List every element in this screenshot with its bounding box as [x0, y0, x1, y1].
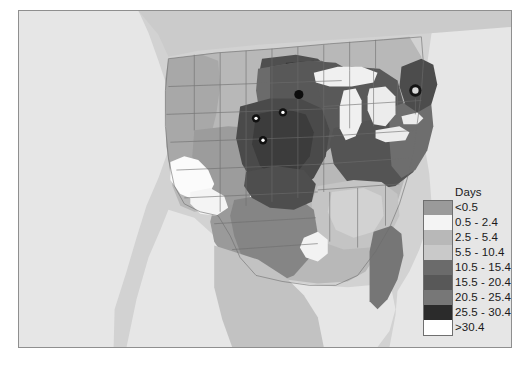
legend-row-1: 0.5 - 2.4: [422, 215, 510, 230]
legend-swatch-4: [423, 260, 453, 275]
legend-row-8: >30.4: [422, 320, 510, 335]
legend-label-0: <0.5: [455, 201, 478, 213]
legend-swatch-1: [423, 215, 453, 230]
legend-label-8: >30.4: [455, 321, 485, 333]
legend-label-4: 10.5 - 15.4: [455, 261, 511, 273]
legend-swatch-7: [423, 305, 453, 320]
legend-label-2: 2.5 - 5.4: [455, 231, 498, 243]
legend-swatch-3: [423, 245, 453, 260]
legend-swatch-0: [423, 200, 453, 216]
legend-label-7: 25.5 - 30.4: [455, 306, 511, 318]
legend-row-7: 25.5 - 30.4: [422, 305, 510, 320]
legend-swatch-6: [423, 290, 453, 305]
station-marker: [294, 90, 303, 99]
screenshot-root: Days <0.5 0.5 - 2.4 2.5 - 5.4 5.5 - 10.4…: [0, 0, 530, 367]
station-marker: [279, 108, 287, 116]
legend-label-3: 5.5 - 10.4: [455, 246, 505, 258]
map-legend: Days <0.5 0.5 - 2.4 2.5 - 5.4 5.5 - 10.4…: [422, 186, 510, 337]
legend-row-5: 15.5 - 20.4: [422, 275, 510, 290]
legend-swatch-8: [423, 320, 453, 336]
station-marker: [252, 114, 260, 122]
legend-label-5: 15.5 - 20.4: [455, 276, 511, 288]
legend-row-2: 2.5 - 5.4: [422, 230, 510, 245]
legend-label-6: 20.5 - 25.4: [455, 291, 511, 303]
station-marker: [409, 84, 421, 96]
legend-title: Days: [455, 186, 482, 198]
legend-swatch-5: [423, 275, 453, 290]
legend-row-3: 5.5 - 10.4: [422, 245, 510, 260]
legend-row-4: 10.5 - 15.4: [422, 260, 510, 275]
legend-label-1: 0.5 - 2.4: [455, 216, 498, 228]
station-marker: [259, 136, 267, 144]
legend-row-0: <0.5: [422, 200, 510, 215]
legend-swatch-2: [423, 230, 453, 245]
legend-row-6: 20.5 - 25.4: [422, 290, 510, 305]
